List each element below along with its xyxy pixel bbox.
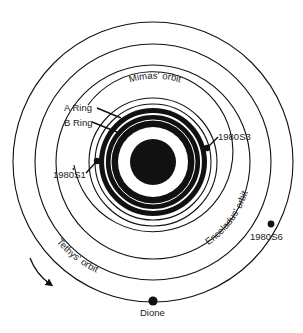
tethys-orbit-label: Tethys' orbit — [55, 236, 101, 274]
moon-dione — [148, 296, 157, 305]
moon-1980s6 — [268, 221, 275, 228]
rotation-arrow-icon — [30, 258, 50, 284]
s3-label: 1980S3 — [218, 131, 251, 142]
saturn-planet — [130, 139, 176, 185]
mimas-orbit-label: Mimas' orbit — [128, 70, 184, 85]
b-ring-label: B Ring — [64, 117, 93, 128]
a-ring-leader — [97, 108, 121, 118]
a-ring-label: A Ring — [64, 102, 92, 113]
saturn-orbit-diagram: A Ring B Ring 1980S3 1980S1 1980S6 Dione… — [0, 0, 303, 333]
dione-label: Dione — [140, 307, 165, 318]
s6-label: 1980S6 — [250, 231, 283, 242]
s1-label: 1980S1 — [53, 169, 86, 180]
